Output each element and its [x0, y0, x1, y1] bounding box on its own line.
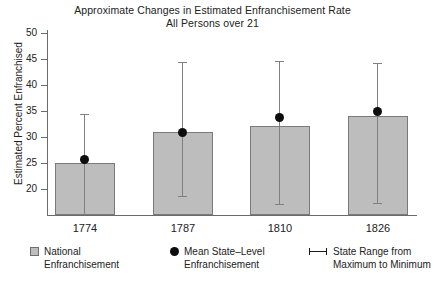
mean-dot-1774 — [80, 155, 89, 164]
range-line-1810 — [279, 61, 280, 204]
black-dot-swatch-icon — [170, 247, 179, 256]
y-tick-mark-50 — [41, 33, 47, 34]
y-tick-mark-25 — [41, 163, 47, 164]
range-line-1826 — [377, 63, 378, 203]
range-cap-min-1787 — [178, 196, 187, 197]
legend-label-national-enfranchisement: National Enfranchisement — [44, 246, 119, 271]
legend-item-state-range: State Range from Maximum to Minimum — [308, 246, 435, 271]
y-tick-mark-30 — [41, 137, 47, 138]
range-cap-max-1787 — [178, 62, 187, 63]
gray-square-swatch-icon — [30, 247, 39, 256]
range-line-1774 — [84, 114, 85, 215]
range-cap-max-1774 — [80, 114, 89, 115]
x-tick-label-1810: 1810 — [245, 222, 315, 234]
bar-1787 — [153, 132, 213, 215]
bar-1774 — [55, 163, 115, 215]
range-cap-max-1826 — [373, 63, 382, 64]
y-tick-mark-20 — [41, 189, 47, 190]
chart-legend: National Enfranchisement Mean State–Leve… — [30, 246, 410, 278]
range-cap-min-1810 — [275, 204, 284, 205]
legend-item-mean-state-level: Mean State–Level Enfranchisement — [170, 246, 300, 271]
legend-label-mean-state-level: Mean State–Level Enfranchisement — [184, 246, 265, 271]
x-tick-label-1826: 1826 — [343, 222, 413, 234]
range-cap-max-1810 — [275, 61, 284, 62]
range-cap-min-1826 — [373, 203, 382, 204]
bar-1826 — [348, 116, 408, 215]
y-tick-mark-40 — [41, 85, 47, 86]
x-tick-label-1787: 1787 — [148, 222, 218, 234]
legend-item-national-enfranchisement: National Enfranchisement — [30, 246, 150, 271]
chart-title: Approximate Changes in Estimated Enfranc… — [0, 4, 425, 17]
y-tick-mark-35 — [41, 111, 47, 112]
x-tick-label-1774: 1774 — [50, 222, 120, 234]
x-axis-line — [47, 215, 417, 216]
chart-title-block: Approximate Changes in Estimated Enfranc… — [0, 4, 425, 30]
mean-dot-1826 — [373, 107, 382, 116]
y-axis-line — [47, 30, 48, 216]
y-axis-title: Estimated Percent Enfranchised — [13, 34, 24, 194]
legend-label-state-range: State Range from Maximum to Minimum — [333, 246, 431, 271]
mean-dot-1787 — [178, 128, 187, 137]
range-bar-swatch-icon — [308, 247, 328, 256]
chart-subtitle: All Persons over 21 — [0, 17, 425, 30]
mean-dot-1810 — [275, 113, 284, 122]
bar-1810 — [250, 126, 310, 215]
y-tick-mark-45 — [41, 59, 47, 60]
